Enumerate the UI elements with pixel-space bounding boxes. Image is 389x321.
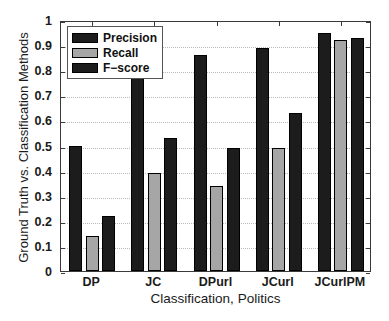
y-tick-mark xyxy=(366,122,370,123)
bar-jcurlpm-precision xyxy=(318,33,331,271)
y-tick-mark xyxy=(366,47,370,48)
y-tick-mark xyxy=(61,273,65,274)
bar-jcurl-f-score xyxy=(289,113,302,271)
y-tick-mark xyxy=(366,273,370,274)
plot-area: PrecisionRecallF−score xyxy=(60,21,371,272)
bar-jcurlpm-f-score xyxy=(351,38,364,271)
legend-swatch-precision xyxy=(72,33,98,43)
x-axis-title: Classification, Politics xyxy=(60,291,371,306)
y-tick-mark xyxy=(366,97,370,98)
bar-jcurl-precision xyxy=(256,48,269,271)
y-tick-mark xyxy=(61,148,65,149)
y-tick-mark xyxy=(61,198,65,199)
y-tick-label: 0.9 xyxy=(35,39,52,53)
bar-dp-precision xyxy=(69,146,82,272)
x-tick-label-dp: DP xyxy=(82,275,99,289)
y-tick-label: 0.1 xyxy=(35,240,52,254)
y-tick-label: 0.6 xyxy=(35,114,52,128)
y-axis-tick-labels: 00.10.20.30.40.50.60.70.80.91 xyxy=(0,0,56,321)
y-tick-mark xyxy=(61,97,65,98)
bar-dp-f-score xyxy=(102,216,115,271)
y-tick-label: 0.4 xyxy=(35,165,52,179)
chart-legend: PrecisionRecallF−score xyxy=(67,26,163,79)
legend-row: Precision xyxy=(72,30,157,45)
legend-label: F−score xyxy=(103,62,149,74)
y-tick-label: 0 xyxy=(45,265,52,279)
y-tick-mark xyxy=(366,223,370,224)
legend-swatch-f-score xyxy=(72,63,98,73)
x-tick-mark xyxy=(341,22,342,26)
bar-jc-f-score xyxy=(164,138,177,271)
legend-label: Recall xyxy=(103,47,138,59)
y-tick-mark xyxy=(366,22,370,23)
x-tick-mark xyxy=(217,22,218,26)
bar-jcurl-recall xyxy=(272,148,285,271)
x-tick-mark xyxy=(279,22,280,26)
legend-swatch-recall xyxy=(72,48,98,58)
y-tick-mark xyxy=(61,47,65,48)
x-tick-label-jc: JC xyxy=(145,275,161,289)
x-tick-label-dpurl: DPurl xyxy=(199,275,232,289)
y-tick-mark xyxy=(61,173,65,174)
y-tick-mark xyxy=(61,72,65,73)
bar-dpurl-precision xyxy=(194,55,207,271)
y-tick-label: 0.7 xyxy=(35,89,52,103)
y-tick-mark xyxy=(61,223,65,224)
y-tick-label: 1 xyxy=(45,14,52,28)
y-tick-mark xyxy=(366,72,370,73)
bar-dpurl-recall xyxy=(210,186,223,271)
y-tick-mark xyxy=(61,22,65,23)
y-tick-mark xyxy=(366,248,370,249)
bar-dpurl-f-score xyxy=(227,148,240,271)
y-tick-mark xyxy=(366,198,370,199)
x-axis-tick-labels: DPJCDPurlJCurlJCurlPM xyxy=(60,275,371,291)
y-tick-label: 0.3 xyxy=(35,190,52,204)
y-tick-mark xyxy=(366,173,370,174)
legend-row: F−score xyxy=(72,60,157,75)
y-tick-mark xyxy=(61,122,65,123)
bar-jcurlpm-recall xyxy=(334,40,347,271)
y-tick-label: 0.5 xyxy=(35,140,52,154)
legend-row: Recall xyxy=(72,45,157,60)
bar-jc-precision xyxy=(131,70,144,271)
bar-dp-recall xyxy=(86,236,99,271)
y-tick-label: 0.2 xyxy=(35,215,52,229)
bar-chart-figure: Ground Truth vs. Classification Methods … xyxy=(0,0,389,321)
x-tick-label-jcurl: JCurl xyxy=(262,275,294,289)
bar-jc-recall xyxy=(148,173,161,271)
y-tick-label: 0.8 xyxy=(35,64,52,78)
y-tick-mark xyxy=(366,148,370,149)
y-tick-mark xyxy=(61,248,65,249)
x-tick-label-jcurlpm: JCurlPM xyxy=(315,275,366,289)
legend-label: Precision xyxy=(103,32,157,44)
